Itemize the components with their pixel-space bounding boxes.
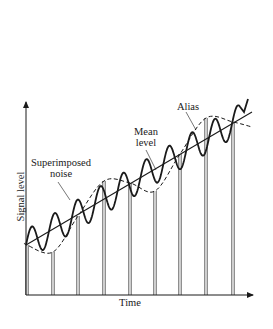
leader-alias: [186, 112, 196, 130]
annotation-noise-line1: Superimposed: [28, 157, 94, 168]
annotation-mean-level: Mean level: [128, 126, 164, 148]
annotation-mean-line1: Mean: [128, 126, 164, 137]
annotation-mean-line2: level: [128, 137, 164, 148]
annotation-alias: Alias: [170, 101, 206, 112]
aliasing-diagram: Superimposed noise Mean level Alias Time…: [0, 0, 273, 329]
annotation-superimposed-noise: Superimposed noise: [28, 157, 94, 179]
x-axis-label: Time: [110, 297, 150, 308]
annotation-noise-line2: noise: [28, 168, 94, 179]
leader-noise: [58, 182, 70, 200]
y-axis-label: Signal level: [15, 161, 26, 233]
